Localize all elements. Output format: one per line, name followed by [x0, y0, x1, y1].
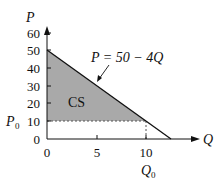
p0-label: P: [5, 114, 15, 129]
y-axis-arrow-icon: [44, 26, 50, 35]
q0-subscript: 0: [151, 170, 156, 180]
y-tick-label: 50: [27, 43, 40, 58]
q0-label: Q: [141, 163, 151, 178]
y-axis-label: P: [25, 10, 35, 25]
y-tick-label: 10: [27, 114, 40, 129]
y-tick-label: 20: [27, 96, 40, 111]
chart-canvas: 60 50 40 30 20 10 0 0 5 10 P Q P 0 Q 0 C…: [0, 0, 218, 181]
y-tick-label: 30: [27, 79, 40, 94]
x-axis-label: Q: [203, 132, 213, 147]
x-tick-label: 10: [140, 145, 153, 160]
x-tick-label: 0: [44, 145, 51, 160]
demand-equation-label: P = 50 − 4Q: [90, 50, 163, 65]
y-tick-label: 60: [27, 26, 40, 41]
y-tick-label: 0: [34, 132, 41, 147]
cs-label: CS: [68, 95, 85, 110]
x-tick-label: 5: [94, 145, 101, 160]
y-tick-label: 40: [27, 61, 40, 76]
x-axis-arrow-icon: [191, 136, 200, 142]
x-ticks: [97, 135, 146, 139]
p0-subscript: 0: [15, 121, 20, 131]
